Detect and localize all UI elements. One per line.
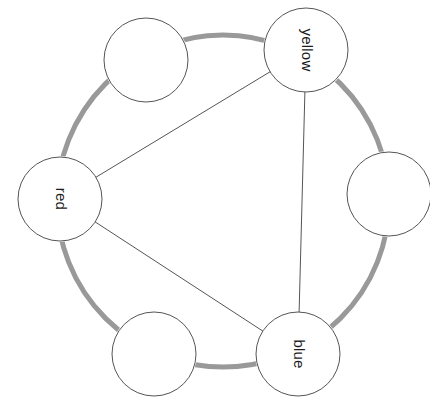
edge-yellow-blue bbox=[298, 50, 306, 354]
node-yellow-label: yellow bbox=[299, 29, 316, 72]
node-right-empty-circle[interactable] bbox=[347, 152, 430, 236]
outer-ring-group bbox=[57, 35, 389, 367]
node-red[interactable]: red bbox=[18, 157, 102, 241]
node-top-left-empty-circle[interactable] bbox=[104, 18, 188, 102]
node-blue-label: blue bbox=[291, 339, 308, 368]
nodes-group: yellow blue red bbox=[18, 8, 430, 396]
color-wheel-diagram: yellow blue red bbox=[0, 0, 430, 402]
diagram-canvas: yellow blue red bbox=[0, 0, 430, 402]
node-yellow[interactable]: yellow bbox=[264, 8, 348, 92]
node-bottom-left-empty-circle[interactable] bbox=[112, 312, 196, 396]
node-red-label: red bbox=[53, 188, 70, 210]
node-blue[interactable]: blue bbox=[256, 312, 340, 396]
node-bottom-left-empty[interactable] bbox=[112, 312, 196, 396]
node-right-empty[interactable] bbox=[347, 152, 430, 236]
outer-ring bbox=[57, 35, 389, 367]
node-top-left-empty[interactable] bbox=[104, 18, 188, 102]
